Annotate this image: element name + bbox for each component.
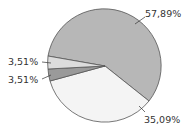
label-35-09: 35,09% — [144, 114, 180, 125]
label-3-51-lower: 3,51% — [8, 74, 38, 85]
label-57-89: 57,89% — [145, 8, 181, 19]
pie-chart: 57,89% 35,09% 3,51% 3,51% — [0, 0, 189, 135]
label-3-51-upper: 3,51% — [8, 56, 38, 67]
